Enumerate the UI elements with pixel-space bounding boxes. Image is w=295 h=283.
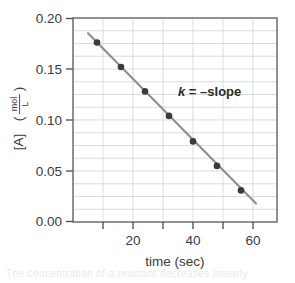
- data-point: [94, 39, 101, 46]
- slope-annotation: k = –slope: [178, 84, 241, 99]
- x-axis-title: time (sec): [145, 254, 204, 269]
- y-axis-paren-close: ): [11, 87, 26, 92]
- data-point: [142, 88, 149, 95]
- x-tick-label-20: 20: [125, 233, 140, 248]
- data-point: [166, 113, 173, 120]
- kinetics-chart: 0.20 0.15 0.10 0.05 0.00 20 40 60 time (…: [0, 0, 295, 283]
- y-axis-title: [A] ( ) mol L: [9, 87, 30, 151]
- x-tick-label-40: 40: [185, 233, 200, 248]
- y-tick-label-005: 0.05: [36, 164, 62, 179]
- y-tick-label-010: 0.10: [36, 113, 62, 128]
- slope-annotation-equals: =: [185, 84, 200, 99]
- y-axis-paren-open: (: [11, 116, 26, 121]
- slope-annotation-value: –slope: [200, 84, 241, 99]
- y-tick-label-015: 0.15: [36, 62, 62, 77]
- figure-container: 0.20 0.15 0.10 0.05 0.00 20 40 60 time (…: [0, 0, 295, 283]
- data-point: [238, 187, 245, 194]
- data-point: [118, 64, 125, 71]
- y-axis-units-denominator: L: [20, 101, 30, 106]
- y-tick-label-000: 0.00: [36, 214, 62, 229]
- y-axis-title-concentration: [A]: [11, 134, 26, 151]
- x-tick-label-60: 60: [245, 233, 260, 248]
- caption-ghost-text: The concentration of a reactant decrease…: [6, 268, 289, 280]
- data-point: [214, 163, 221, 170]
- y-tick-label-020: 0.20: [36, 11, 62, 26]
- data-point: [190, 138, 197, 145]
- x-axis-ticks: [103, 222, 253, 229]
- y-axis-ticks: [66, 19, 73, 222]
- y-axis-units-numerator: mol: [9, 97, 19, 112]
